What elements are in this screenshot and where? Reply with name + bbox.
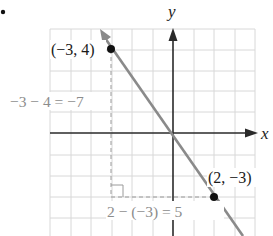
x-axis-arrow-icon	[245, 129, 258, 138]
point-b	[210, 193, 218, 201]
x-axis	[50, 129, 258, 138]
point-b-label: (2, −3)	[208, 169, 252, 187]
y-axis-arrow-icon	[169, 28, 178, 41]
point-a	[107, 45, 115, 53]
right-angle-marker	[111, 185, 123, 197]
x-axis-label: x	[260, 124, 269, 143]
coordinate-diagram: y x (−3, 4) (2, −3) −3 − 4 = −7 2 − (−3)…	[0, 0, 273, 236]
y-axis-label: y	[166, 2, 176, 21]
slope-triangle	[111, 50, 214, 197]
run-annotation: 2 − (−3) = 5	[107, 203, 183, 221]
bullet-dot	[1, 10, 5, 14]
rise-annotation: −3 − 4 = −7	[10, 93, 84, 110]
point-a-label: (−3, 4)	[51, 41, 95, 59]
